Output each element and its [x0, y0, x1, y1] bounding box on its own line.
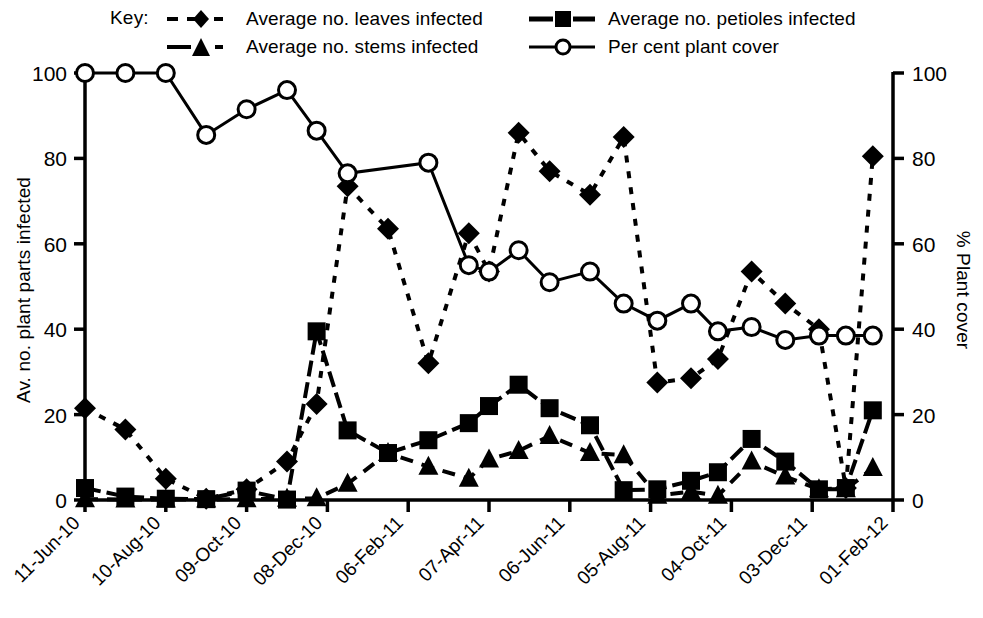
- marker-diamond-0-6: [306, 393, 328, 415]
- marker-triangle-2-11: [479, 448, 499, 467]
- marker-diamond-0-9: [417, 352, 439, 374]
- marker-triangle-2-13: [540, 425, 560, 444]
- marker-diamond-0-1: [114, 419, 136, 441]
- x-tick-label-8: 04-Oct-11: [657, 512, 731, 586]
- marker-circle-3-3: [198, 126, 215, 143]
- marker-triangle-2-23: [863, 457, 883, 476]
- x-tick-label-5: 07-Apr-11: [414, 512, 488, 586]
- marker-circle-3-7: [339, 165, 356, 182]
- marker-square-1-9: [419, 431, 437, 449]
- series-line-1: [85, 331, 873, 499]
- marker-square-1-6: [308, 322, 326, 340]
- marker-triangle-2-15: [614, 444, 634, 463]
- series-line-3: [85, 73, 873, 340]
- marker-diamond-0-20: [774, 293, 796, 315]
- marker-square-1-13: [541, 399, 559, 417]
- marker-circle-3-5: [279, 82, 296, 99]
- marker-circle-3-8: [420, 154, 437, 171]
- y-tick-label-right-100: 100: [912, 62, 947, 85]
- y-axis-right-title: % Plant cover: [953, 231, 974, 350]
- marker-circle-3-2: [157, 65, 174, 82]
- x-tick-label-6: 06-Jun-11: [494, 512, 568, 586]
- x-tick-label-3: 08-Dec-10: [249, 512, 327, 590]
- y-tick-label-right-40: 40: [912, 318, 935, 341]
- chart-plot-area: 02040608010002040608010011-Jun-1010-Aug-…: [0, 0, 983, 618]
- y-axis-left-title: Av. no. plant parts infected: [13, 177, 34, 403]
- marker-circle-3-11: [510, 242, 527, 259]
- y-tick-label-right-20: 20: [912, 404, 935, 427]
- chart-svg: 02040608010002040608010011-Jun-1010-Aug-…: [0, 0, 983, 618]
- marker-square-1-10: [460, 414, 478, 432]
- marker-square-1-7: [339, 421, 357, 439]
- marker-square-1-11: [480, 397, 498, 415]
- marker-diamond-0-23: [862, 145, 884, 167]
- y-tick-label-left-40: 40: [44, 318, 67, 341]
- y-tick-label-left-20: 20: [44, 404, 67, 427]
- marker-circle-3-20: [810, 327, 827, 344]
- x-tick-label-7: 05-Aug-11: [573, 512, 650, 589]
- marker-circle-3-21: [837, 327, 854, 344]
- x-tick-label-2: 09-Oct-10: [171, 512, 246, 587]
- x-tick-label-9: 03-Dec-11: [734, 512, 811, 589]
- marker-diamond-0-18: [707, 348, 729, 370]
- marker-circle-3-16: [683, 295, 700, 312]
- marker-circle-3-12: [541, 274, 558, 291]
- marker-diamond-0-15: [613, 126, 635, 148]
- y-tick-label-left-0: 0: [55, 489, 67, 512]
- y-tick-label-left-80: 80: [44, 147, 67, 170]
- marker-circle-3-22: [864, 327, 881, 344]
- marker-circle-3-19: [777, 331, 794, 348]
- marker-triangle-2-19: [742, 451, 762, 470]
- marker-circle-3-0: [77, 65, 94, 82]
- x-tick-label-0: 11-Jun-10: [9, 512, 83, 586]
- marker-circle-3-17: [709, 323, 726, 340]
- marker-square-1-18: [709, 463, 727, 481]
- x-tick-label-1: 10-Aug-10: [87, 512, 165, 590]
- marker-circle-3-1: [117, 65, 134, 82]
- marker-circle-3-18: [743, 319, 760, 336]
- marker-square-1-14: [581, 416, 599, 434]
- marker-circle-3-15: [649, 312, 666, 329]
- x-tick-label-10: 01-Feb-12: [815, 512, 892, 589]
- x-tick-label-4: 06-Feb-11: [331, 512, 407, 588]
- y-tick-label-right-80: 80: [912, 147, 935, 170]
- marker-diamond-0-14: [579, 184, 601, 206]
- y-tick-label-right-0: 0: [912, 489, 924, 512]
- marker-circle-3-4: [238, 101, 255, 118]
- marker-square-1-12: [510, 376, 528, 394]
- marker-square-1-19: [743, 430, 761, 448]
- y-tick-label-left-60: 60: [44, 233, 67, 256]
- marker-diamond-0-10: [458, 222, 480, 244]
- marker-square-1-23: [864, 401, 882, 419]
- marker-circle-3-14: [615, 295, 632, 312]
- marker-circle-3-9: [460, 257, 477, 274]
- marker-diamond-0-16: [646, 372, 668, 394]
- marker-circle-3-13: [582, 263, 599, 280]
- marker-triangle-2-10: [459, 468, 479, 487]
- marker-triangle-2-18: [708, 485, 728, 504]
- marker-square-1-15: [615, 481, 633, 499]
- marker-triangle-2-7: [338, 473, 358, 492]
- marker-circle-3-10: [481, 263, 498, 280]
- y-tick-label-left-100: 100: [32, 62, 67, 85]
- chart-figure: Key: Average no. leaves infected Average…: [0, 0, 983, 618]
- marker-circle-3-6: [308, 122, 325, 139]
- y-tick-label-right-60: 60: [912, 233, 935, 256]
